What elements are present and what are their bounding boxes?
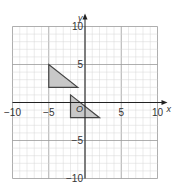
shapes [49,65,100,118]
x-tick-label: −10 [4,107,21,118]
y-tick-label: −5 [72,135,84,146]
x-tick-label: 10 [152,107,164,118]
coordinate-grid: −10−5510105−5−10xyO [0,0,174,190]
x-tick-label: 5 [118,107,124,118]
origin-label: O [76,104,83,114]
y-tick-label: 5 [77,59,83,70]
x-tick-label: −5 [43,107,55,118]
axis-labels: −10−5510105−5−10xyO [4,13,171,185]
y-tick-label: 10 [72,21,84,32]
y-tick-label: −10 [66,173,83,184]
x-axis-label: x [166,104,172,114]
y-axis-label: y [77,13,83,23]
axes [13,14,168,179]
y-axis-arrow-icon [83,14,88,20]
